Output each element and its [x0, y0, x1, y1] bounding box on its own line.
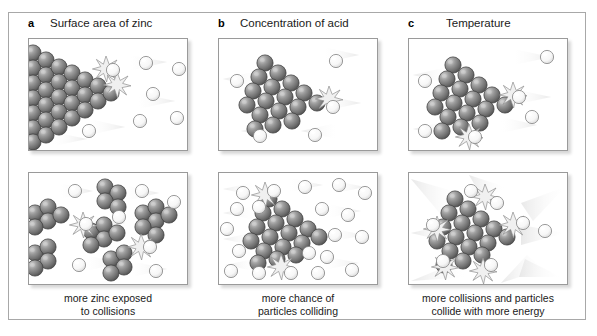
caption-a-line2: to collisions	[28, 305, 188, 318]
panel-c-top	[408, 38, 568, 151]
panel-a-top	[28, 38, 188, 151]
panel-a-bottom-scene	[29, 173, 187, 284]
zinc-cluster	[103, 245, 132, 281]
zinc-cluster-b-top	[239, 55, 325, 137]
panel-b-bottom-scene	[219, 173, 377, 284]
column-a-title: Surface area of zinc	[50, 16, 152, 30]
column-b-letter: b	[218, 16, 225, 30]
caption-c-line2: collide with more energy	[390, 305, 586, 318]
panel-c-bottom	[408, 172, 568, 285]
column-c-title: Temperature	[446, 16, 511, 30]
column-b-header: b Concentration of acid	[218, 16, 388, 32]
zinc-cluster	[29, 199, 69, 235]
zinc-cluster	[29, 239, 56, 276]
column-c-header: c Temperature	[408, 16, 578, 32]
reaction-rate-figure: a Surface area of zinc	[0, 0, 597, 336]
zinc-cluster	[97, 179, 126, 215]
column-a-letter: a	[28, 16, 34, 30]
column-c-letter: c	[408, 16, 414, 30]
caption-b-line2: particles colliding	[218, 305, 378, 318]
column-b-title: Concentration of acid	[240, 16, 349, 30]
caption-b-line1: more chance of	[218, 292, 378, 305]
panel-b-bottom	[218, 172, 378, 285]
caption-a-line1: more zinc exposed	[28, 292, 188, 305]
panel-b-top-scene	[219, 39, 377, 150]
caption-c-line1: more collisions and particles	[390, 292, 586, 305]
caption-b: more chance of particles colliding	[218, 292, 378, 318]
panel-b-top	[218, 38, 378, 151]
collision-burst	[103, 72, 131, 98]
panel-a-bottom	[28, 172, 188, 285]
panel-c-top-scene	[409, 39, 567, 150]
caption-c: more collisions and particles collide wi…	[390, 292, 586, 318]
panel-c-bottom-scene	[409, 173, 567, 284]
column-a-header: a Surface area of zinc	[28, 16, 198, 32]
panel-a-top-scene	[29, 39, 187, 150]
caption-a: more zinc exposed to collisions	[28, 292, 188, 318]
